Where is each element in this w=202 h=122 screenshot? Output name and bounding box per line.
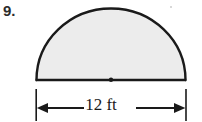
geometry-figure: 9. 12 ft <box>0 0 202 122</box>
scan-speck <box>170 6 172 8</box>
center-dot <box>109 78 113 82</box>
semicircle-fill <box>37 8 186 80</box>
dimension-label: 12 ft <box>0 95 202 115</box>
